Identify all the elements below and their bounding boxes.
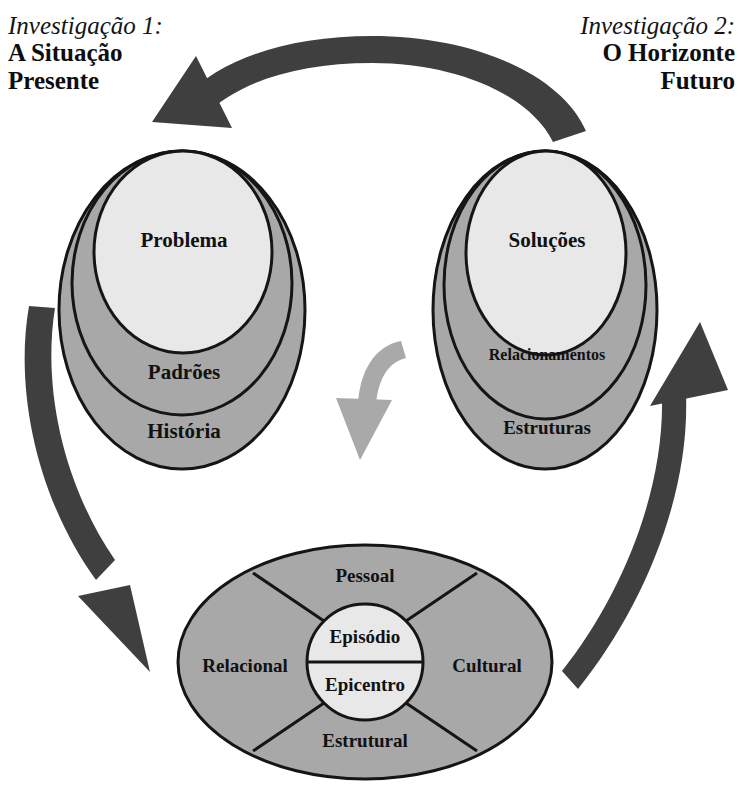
left-egg-inner-shape — [94, 151, 272, 353]
segment-label-estrutural: Estrutural — [322, 730, 408, 751]
right-egg-inner-shape — [466, 151, 626, 355]
segment-label-pessoal: Pessoal — [335, 565, 394, 586]
left-egg-group: Problema Padrões História — [59, 151, 305, 469]
segment-label-cultural: Cultural — [452, 655, 522, 676]
core-label-episodio: Episódio — [330, 626, 401, 647]
right-egg-middle-label: Relacionamentos — [489, 346, 605, 363]
right-egg-inner-label: Soluções — [508, 228, 585, 252]
cycle-diagram: Problema Padrões História Soluções Relac… — [0, 0, 745, 809]
segment-label-relacional: Relacional — [202, 655, 288, 676]
core-label-epicentro: Epicentro — [325, 674, 405, 695]
left-egg-inner-label: Problema — [140, 228, 228, 252]
bottom-ellipse-group: Pessoal Cultural Estrutural Relacional E… — [178, 545, 552, 779]
right-egg-group: Soluções Relacionamentos Estruturas — [433, 151, 657, 469]
top-arrow — [152, 36, 586, 142]
left-egg-middle-label: Padrões — [148, 360, 220, 384]
right-egg-outer-label: Estruturas — [503, 417, 591, 438]
center-arrow — [336, 341, 406, 460]
left-egg-outer-label: História — [147, 419, 221, 443]
diagram-canvas: Investigação 1: A Situação Presente Inve… — [0, 0, 745, 809]
